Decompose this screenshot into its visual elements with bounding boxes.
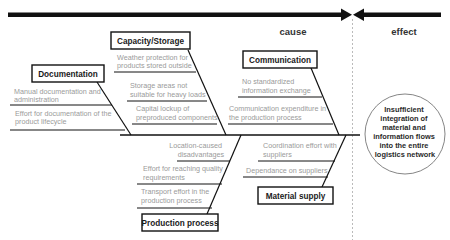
category-label: Production process [142,219,219,228]
cause-text: Coordination effort with suppliers [263,141,339,159]
category-label: Material supply [266,192,326,201]
category-capacity-storage: Capacity/Storage Weather protection for … [111,32,226,135]
cause-text: Capital lockup of preproduced components [136,104,218,122]
cause-text: Location-caused disadvantages [169,141,224,159]
cause-label: cause [280,26,307,37]
cause-text: Manual documentation and administration [14,87,103,104]
cause-text: Effort for documentation of the product … [15,109,114,126]
cause-text: Effort for reaching quality requirements [143,164,225,182]
category-label: Capacity/Storage [117,37,184,46]
effect-text: Insufficient integration of material and… [373,105,437,159]
category-communication: Communication No standardized informatio… [228,51,339,135]
category-documentation: Documentation Manual documentation and a… [10,65,131,135]
cause-text: Dependance on suppliers [246,166,328,175]
category-material-supply: Material supply Coordination effort with… [243,135,346,204]
category-label: Documentation [38,70,98,79]
effect-label: effect [391,26,417,37]
top-arrow-bar [8,9,441,22]
category-label: Communication [249,56,311,65]
arrow-left-icon [353,9,364,22]
cause-text: Communication expenditure in the product… [229,104,328,122]
effect-node: Insufficient integration of material and… [365,94,445,174]
category-production-process: Production process Location-caused disad… [137,135,241,231]
cause-text: Transport effort in the production proce… [141,187,211,205]
fishbone-diagram: cause effect Insufficient integration of… [0,0,450,240]
bone-line [311,68,339,135]
cause-text: Storage areas not suitable for heavy loa… [130,81,206,99]
cause-text: Weather protection for products stored o… [117,53,192,70]
cause-text: No standardized information exchange [242,77,311,95]
arrow-right-icon [341,9,352,22]
